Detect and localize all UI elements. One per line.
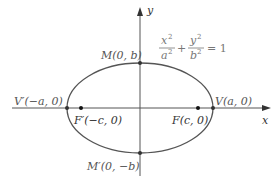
- point-v-prime: [65, 106, 69, 110]
- ellipse-equation: x 2 a 2 + y 2 b 2 = 1: [159, 33, 227, 62]
- eq-exp: 2: [197, 48, 201, 56]
- eq-rhs: = 1: [207, 42, 227, 55]
- label-v-prime: V′(−a, 0): [14, 95, 63, 108]
- point-f-prime: [79, 106, 83, 110]
- y-axis-arrow-icon: [137, 7, 143, 16]
- label-m-prime: M′(0, −b): [86, 160, 140, 173]
- eq-plus: +: [177, 42, 186, 55]
- label-f-prime: F′(−c, 0): [73, 114, 122, 127]
- eq-exp: 2: [168, 48, 172, 56]
- label-m: M(0, b): [100, 49, 142, 62]
- point-f: [196, 106, 200, 110]
- point-m-prime: [138, 151, 142, 155]
- eq-num-x: x: [161, 34, 168, 47]
- x-axis-arrow-icon: [262, 105, 271, 111]
- y-axis-label: y: [146, 4, 154, 17]
- label-f: F(c, 0): [171, 114, 208, 127]
- ellipse-diagram: y x M(0, b) M′(0, −b) V′(−a, 0) V(a, 0) …: [0, 0, 274, 183]
- x-axis-label: x: [262, 114, 269, 127]
- eq-num-y: y: [189, 34, 197, 47]
- eq-exp: 2: [197, 33, 201, 41]
- eq-den-b: b: [190, 49, 197, 62]
- eq-den-a: a: [161, 49, 168, 62]
- label-v: V(a, 0): [215, 95, 252, 108]
- eq-exp: 2: [168, 33, 172, 41]
